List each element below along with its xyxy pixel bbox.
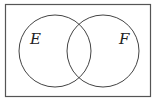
venn-diagram: E F <box>0 0 156 104</box>
set-f-label: F <box>118 30 130 48</box>
set-e-label: E <box>29 30 41 48</box>
set-e-circle <box>19 15 91 87</box>
universal-set-rectangle <box>6 5 151 97</box>
set-f-circle <box>67 15 139 87</box>
